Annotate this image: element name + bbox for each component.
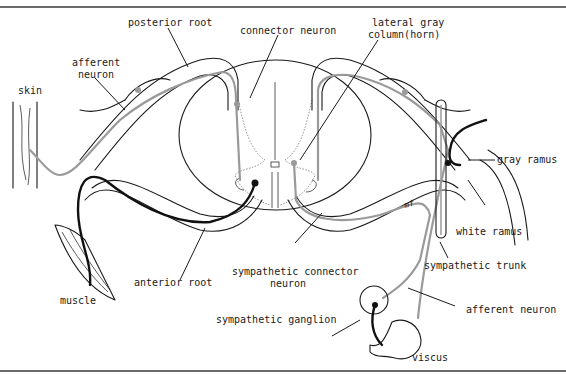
right-spinal-nerve	[288, 58, 528, 245]
label-anterior-root: anterior root	[134, 277, 212, 288]
sympathetic-ganglion	[360, 286, 388, 345]
label-muscle: muscle	[60, 295, 96, 306]
muscle	[55, 225, 115, 300]
label-posterior-root: posterior root	[128, 17, 212, 28]
label-sympathetic-connector-2: neuron	[270, 278, 306, 289]
diagram-frame: mf posterior root connector neuron later…	[0, 0, 566, 374]
label-lateral-gray-1: lateral gray	[372, 17, 444, 28]
label-white-ramus: white ramus	[456, 226, 522, 237]
connector-cell-body	[234, 101, 240, 107]
afferent-pathway-skin	[30, 72, 240, 180]
label-afferent-neuron-right: afferent neuron	[466, 304, 556, 315]
efferent-pathway-muscle	[78, 177, 255, 285]
label-gray-ramus: gray ramus	[497, 154, 557, 165]
afferent-cell-body-right	[402, 89, 408, 95]
gray-ramus-cell-body	[445, 160, 451, 166]
lateral-horn-cell-body	[291, 160, 297, 166]
motor-cell-body	[252, 180, 259, 187]
label-afferent-neuron-2: neuron	[78, 69, 114, 80]
sympathetic-connector-pathway	[294, 163, 430, 298]
label-sympathetic-trunk: sympathetic trunk	[424, 260, 526, 271]
spinal-cord	[179, 60, 371, 210]
label-sympathetic-ganglion: sympathetic ganglion	[216, 314, 336, 325]
gray-ramus-fiber	[449, 120, 486, 165]
afferent-cell-body-left	[135, 87, 141, 93]
label-connector-neuron: connector neuron	[240, 25, 336, 36]
skin	[13, 102, 37, 188]
spinal-reflex-diagram: mf posterior root connector neuron later…	[0, 0, 566, 374]
label-viscus: viscus	[412, 352, 448, 363]
label-lateral-gray-2: column(horn)	[368, 29, 440, 40]
label-afferent-neuron-1: afferent	[72, 57, 120, 68]
label-skin: skin	[18, 85, 42, 96]
label-sympathetic-connector-1: sympathetic connector	[232, 266, 358, 277]
